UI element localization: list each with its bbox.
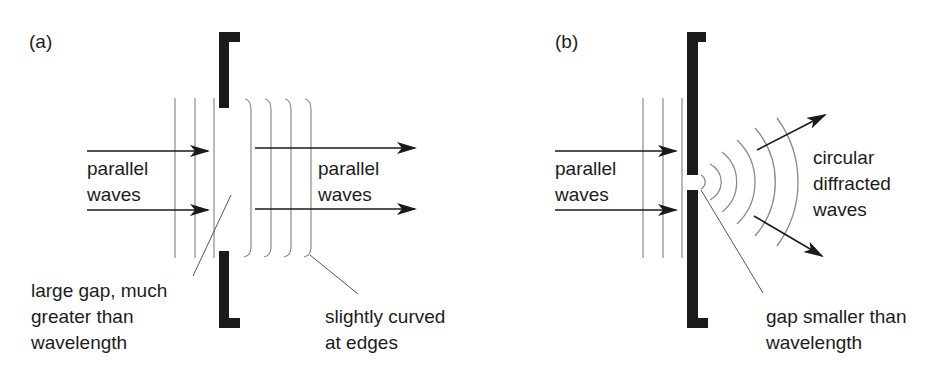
incoming-wavefronts-b: [643, 98, 682, 258]
edge-label-a: slightly curved at edges: [325, 304, 445, 356]
incoming-label-b-line2: waves: [555, 182, 616, 208]
incoming-label-b-line1: parallel: [555, 156, 616, 182]
outgoing-label-a-line1: parallel: [318, 156, 379, 182]
barrier-top-b: [687, 32, 706, 175]
outgoing-label-a: parallel waves: [318, 156, 379, 208]
outgoing-wavefronts-a: [244, 99, 311, 257]
gap-label-b-line1: gap smaller than: [766, 304, 906, 330]
outgoing-label-b-line1: circular: [813, 145, 891, 171]
incoming-label-a-line1: parallel: [87, 156, 148, 182]
gap-label-a: large gap, much greater than wavelength: [31, 278, 167, 356]
incoming-wavefronts-a: [175, 98, 214, 258]
outgoing-label-b: circular diffracted waves: [813, 145, 891, 223]
gap-label-b-line2: wavelength: [766, 330, 906, 356]
barrier-bottom-a: [219, 251, 240, 328]
incoming-label-a-line2: waves: [87, 182, 148, 208]
gap-leader-line-b: [701, 190, 763, 293]
outgoing-label-b-line3: waves: [813, 197, 891, 223]
barrier-bottom-b: [687, 190, 708, 328]
edge-label-a-line2: at edges: [325, 330, 445, 356]
panel-tag-a: (a): [29, 31, 52, 53]
barrier-top-a: [219, 32, 240, 108]
gap-label-b: gap smaller than wavelength: [766, 304, 906, 356]
panel-tag-b: (b): [555, 31, 578, 53]
incoming-label-a: parallel waves: [87, 156, 148, 208]
outgoing-label-a-line2: waves: [318, 182, 379, 208]
edge-leader-line-a: [310, 255, 358, 294]
incoming-label-b: parallel waves: [555, 156, 616, 208]
gap-label-a-line2: greater than: [31, 304, 167, 330]
gap-label-a-line1: large gap, much: [31, 278, 167, 304]
gap-label-a-line3: wavelength: [31, 330, 167, 356]
outgoing-label-b-line2: diffracted: [813, 171, 891, 197]
edge-label-a-line1: slightly curved: [325, 304, 445, 330]
